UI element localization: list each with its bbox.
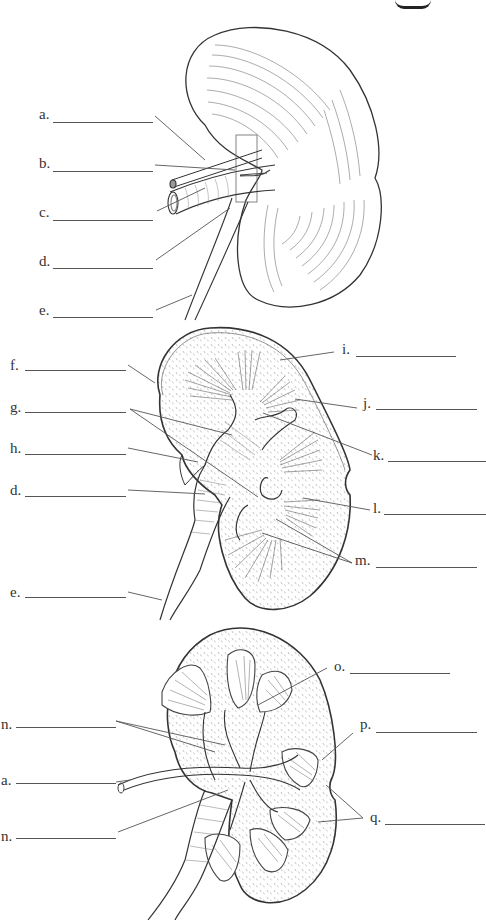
answer-blank-e-top[interactable] xyxy=(53,317,153,318)
answer-blank-p[interactable] xyxy=(376,732,477,733)
label-l: l. xyxy=(373,501,381,516)
answer-blank-o[interactable] xyxy=(350,673,450,674)
label-h: h. xyxy=(10,441,21,456)
answer-blank-n-lower[interactable] xyxy=(16,838,116,839)
label-i: i. xyxy=(342,342,350,357)
label-n-lower: n. xyxy=(1,829,12,844)
kidney-vascular-section xyxy=(118,628,336,920)
label-o: o. xyxy=(334,659,345,674)
answer-blank-a-bottom[interactable] xyxy=(16,783,116,784)
label-e-top: e. xyxy=(39,303,49,318)
answer-blank-m[interactable] xyxy=(376,567,477,568)
label-a-bottom: a. xyxy=(1,773,11,788)
answer-blank-d-top[interactable] xyxy=(53,268,153,269)
answer-blank-b-top[interactable] xyxy=(53,171,153,172)
answer-blank-h[interactable] xyxy=(25,454,126,455)
label-n-upper: n. xyxy=(1,717,12,732)
kidney-external-view xyxy=(168,28,381,320)
label-m: m. xyxy=(355,553,370,568)
answer-blank-i[interactable] xyxy=(356,356,456,357)
answer-blank-d-middle[interactable] xyxy=(25,496,126,497)
label-q: q. xyxy=(370,810,381,825)
answer-blank-a-top[interactable] xyxy=(53,122,153,123)
label-a-top: a. xyxy=(39,107,49,122)
answer-blank-n-upper[interactable] xyxy=(16,727,116,728)
kidney-frontal-section xyxy=(158,328,350,620)
kidney-diagram xyxy=(0,0,486,920)
label-g: g. xyxy=(10,400,21,415)
answer-blank-k[interactable] xyxy=(388,461,486,462)
answer-blank-q[interactable] xyxy=(385,824,485,825)
label-d-top: d. xyxy=(39,254,50,269)
answer-blank-e-middle[interactable] xyxy=(25,597,126,598)
label-b-top: b. xyxy=(39,156,50,171)
label-p: p. xyxy=(360,717,371,732)
label-e-middle: e. xyxy=(10,585,20,600)
label-j: j. xyxy=(363,396,371,411)
label-c-top: c. xyxy=(39,205,49,220)
answer-blank-g[interactable] xyxy=(25,412,126,413)
leader-lines-top xyxy=(155,116,235,310)
answer-blank-f[interactable] xyxy=(25,370,126,371)
label-d-middle: d. xyxy=(10,483,21,498)
label-k: k. xyxy=(373,448,384,463)
answer-blank-l[interactable] xyxy=(384,514,486,515)
label-f: f. xyxy=(10,358,19,373)
answer-blank-c-top[interactable] xyxy=(53,220,153,221)
answer-blank-j[interactable] xyxy=(376,409,477,410)
